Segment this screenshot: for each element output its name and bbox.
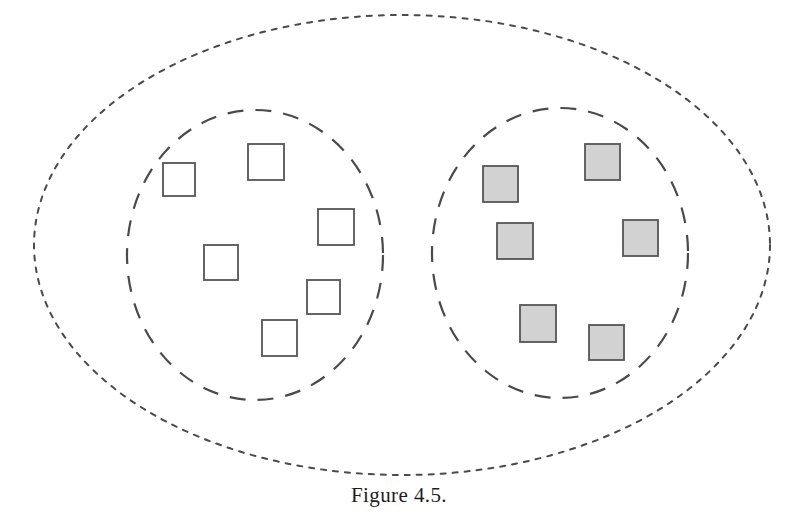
diagram-background xyxy=(0,0,798,521)
white-square-5 xyxy=(307,280,340,314)
figure-caption: Figure 4.5. xyxy=(0,483,798,508)
white-square-6 xyxy=(262,320,297,356)
gray-square-5 xyxy=(520,305,556,342)
white-square-1 xyxy=(163,163,195,196)
set-diagram-svg xyxy=(0,0,798,521)
gray-square-3 xyxy=(497,223,533,259)
white-square-3 xyxy=(318,209,354,245)
gray-square-6 xyxy=(589,325,624,360)
gray-square-2 xyxy=(585,144,620,180)
white-square-2 xyxy=(248,144,284,180)
figure-container: Figure 4.5. xyxy=(0,0,798,521)
white-square-4 xyxy=(204,245,238,280)
gray-square-1 xyxy=(483,166,518,202)
gray-square-4 xyxy=(623,220,658,256)
